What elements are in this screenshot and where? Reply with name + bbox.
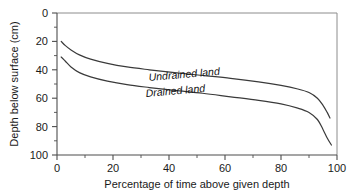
series-label-undrained-land: Undrained land xyxy=(148,65,221,83)
x-axis-title: Percentage of time above given depth xyxy=(104,178,289,190)
y-tick-label: 60 xyxy=(36,92,48,104)
x-tick-label: 20 xyxy=(107,162,119,174)
y-axis-tick-labels: 0 20 40 60 80 100 xyxy=(30,7,48,161)
chart-figure: 0 20 40 60 80 100 0 20 40 60 80 100 Perc… xyxy=(0,0,351,195)
y-axis-title: Depth below surface (cm) xyxy=(8,21,20,146)
x-tick-label: 100 xyxy=(328,162,346,174)
y-tick-label: 80 xyxy=(36,121,48,133)
y-tick-label: 100 xyxy=(30,149,48,161)
y-tick-label: 0 xyxy=(42,7,48,19)
x-tick-label: 0 xyxy=(54,162,60,174)
x-tick-label: 60 xyxy=(219,162,231,174)
y-tick-label: 40 xyxy=(36,64,48,76)
depth-duration-chart: 0 20 40 60 80 100 0 20 40 60 80 100 Perc… xyxy=(0,0,351,195)
x-tick-label: 40 xyxy=(163,162,175,174)
x-tick-label: 80 xyxy=(275,162,287,174)
y-tick-label: 20 xyxy=(36,35,48,47)
series-label-drained-land: Drained land xyxy=(145,82,207,99)
x-axis-tick-labels: 0 20 40 60 80 100 xyxy=(54,162,346,174)
